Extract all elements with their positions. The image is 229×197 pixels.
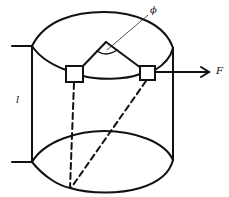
force-label: F: [216, 66, 223, 76]
top-rim-back-arc: [32, 12, 173, 48]
top-rim-front-right: [155, 48, 173, 70]
bottom-ellipse-front: [32, 160, 173, 193]
string-left: [82, 42, 106, 67]
top-rim-front-left: [32, 46, 66, 70]
angle-label: ϕ: [150, 5, 157, 15]
cylinder-diagram: [0, 0, 229, 197]
block-right: [140, 66, 155, 80]
length-label: l: [16, 95, 19, 105]
bottom-ellipse-back: [32, 131, 173, 162]
top-rim-front-middle: [83, 74, 140, 79]
block-left: [66, 66, 83, 82]
angle-arc: [97, 50, 117, 54]
angle-leader-line: [107, 15, 148, 50]
